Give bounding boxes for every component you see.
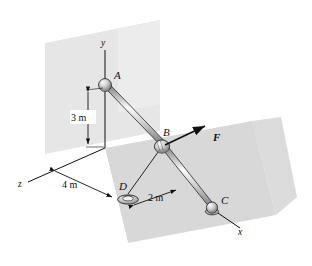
dimension-3m-label: 3 m — [71, 112, 87, 123]
point-a-label: A — [113, 69, 121, 81]
statics-figure: y z x A B C — [0, 0, 312, 266]
point-a-joint — [99, 79, 112, 92]
point-b-label: B — [163, 126, 170, 138]
dimension-2m-label: 2 m — [148, 192, 164, 203]
point-d-label: D — [118, 180, 127, 192]
point-d-anchor — [118, 195, 139, 204]
vertical-plane-sheen — [118, 20, 160, 112]
point-c-joint — [205, 202, 218, 215]
x-axis-label: x — [237, 227, 243, 237]
y-axis-label: y — [100, 38, 106, 48]
point-b-joint — [154, 140, 169, 154]
figure-canvas: y z x A B C — [0, 0, 312, 266]
z-axis-label: z — [17, 179, 22, 189]
dimension-4m-label: 4 m — [62, 179, 78, 190]
point-c-label: C — [221, 194, 229, 206]
force-f-label: F — [212, 131, 221, 143]
